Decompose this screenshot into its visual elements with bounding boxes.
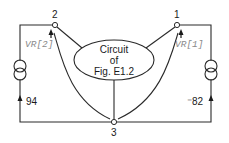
right-source-value: ⁻82 bbox=[187, 97, 203, 107]
block-line-2: of bbox=[74, 55, 154, 66]
vr1-arrow-icon bbox=[179, 29, 184, 35]
block-line-1: Circuit bbox=[74, 44, 154, 55]
node-1-label: 1 bbox=[174, 10, 180, 20]
left-current-arrow-icon bbox=[18, 95, 23, 101]
node-1 bbox=[174, 22, 179, 27]
node-2-label: 2 bbox=[52, 10, 58, 20]
block-line-3: Fig. E1.2 bbox=[74, 66, 154, 77]
vr2-label: VR[2] bbox=[25, 40, 54, 50]
node-2 bbox=[52, 22, 57, 27]
right-current-arrow-icon bbox=[209, 95, 214, 101]
vr1-label: VR[1] bbox=[175, 40, 204, 50]
vr2-arrow-icon bbox=[49, 29, 54, 35]
node-3-label: 3 bbox=[111, 128, 117, 138]
node-3 bbox=[111, 119, 116, 124]
circuit-block-label: Circuit of Fig. E1.2 bbox=[74, 44, 154, 77]
left-source-value: 94 bbox=[26, 97, 37, 107]
